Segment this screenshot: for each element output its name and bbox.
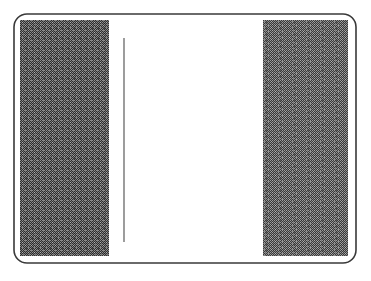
right-shaded-block [263,20,348,256]
left-shaded-block [20,20,109,256]
figure-canvas [0,0,371,281]
figure-svg [0,0,371,281]
